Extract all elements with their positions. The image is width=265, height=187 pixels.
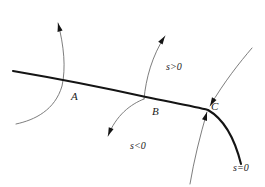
region-label-s-positive: s>0 bbox=[166, 62, 182, 72]
flow-curve-into-c-below bbox=[190, 112, 207, 184]
arrowhead-through-a bbox=[58, 23, 63, 32]
point-label-a: A bbox=[71, 91, 78, 102]
flow-curve-through-b-up bbox=[144, 36, 165, 99]
arrowheads-group bbox=[58, 23, 217, 136]
diagram-canvas: A B C s>0 s<0 s=0 bbox=[0, 0, 265, 187]
flow-curve-below-b bbox=[108, 99, 144, 136]
arrowhead-through-b-up bbox=[158, 36, 165, 45]
region-label-s-zero: s=0 bbox=[233, 163, 249, 173]
point-label-c: C bbox=[211, 101, 218, 112]
point-label-b: B bbox=[152, 106, 159, 117]
diagram-svg bbox=[0, 0, 265, 187]
arrowhead-into-c-below bbox=[202, 112, 207, 121]
flow-curve-into-c-upper-right bbox=[210, 48, 252, 106]
region-label-s-negative: s<0 bbox=[130, 141, 146, 151]
arrowhead-below-b bbox=[108, 127, 114, 136]
